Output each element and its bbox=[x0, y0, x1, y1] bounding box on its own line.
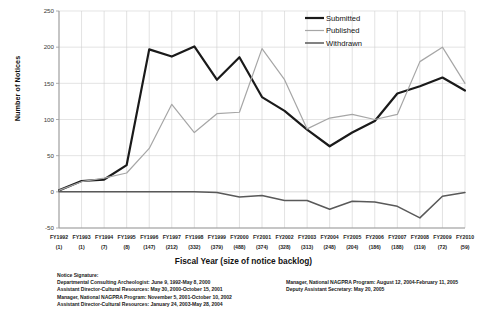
x-tick-label: FY2003 bbox=[298, 234, 316, 240]
footnote-line: Manager, National NAGPRA Program: Novemb… bbox=[57, 294, 282, 301]
x-tick-label: FY2010 bbox=[456, 234, 474, 240]
footnotes-title: Notice Signature: bbox=[57, 272, 282, 279]
legend-label: Withdrawn bbox=[326, 39, 362, 48]
x-tick-sublabel: (332) bbox=[188, 244, 200, 250]
footnote-line: Departmental Consulting Archeologist: Ju… bbox=[57, 279, 282, 286]
x-tick-label: FY1996 bbox=[140, 234, 158, 240]
y-tick-label: -50 bbox=[45, 224, 55, 231]
y-tick-label: 150 bbox=[44, 80, 55, 87]
y-tick-label: 200 bbox=[44, 43, 55, 50]
x-tick-label: FY1993 bbox=[72, 234, 90, 240]
x-tick-label: FY2007 bbox=[388, 234, 406, 240]
x-tick-sublabel: (1) bbox=[56, 244, 63, 250]
x-tick-sublabel: (8) bbox=[123, 244, 130, 250]
y-tick-label: 250 bbox=[44, 7, 55, 14]
x-tick-label: FY2000 bbox=[230, 234, 248, 240]
footnotes-left-column: Notice Signature: Departmental Consultin… bbox=[57, 272, 282, 308]
footnotes-block: Notice Signature: Departmental Consultin… bbox=[0, 272, 487, 314]
x-tick-label: FY1998 bbox=[185, 234, 203, 240]
y-tick-labels-group: 250200150100500-50 bbox=[44, 7, 55, 231]
x-tick-label: FY2004 bbox=[321, 234, 339, 240]
x-tick-sublabel: (188) bbox=[391, 244, 403, 250]
x-tick-sublabel: (7) bbox=[101, 244, 108, 250]
x-tick-sublabel: (374) bbox=[256, 244, 268, 250]
x-tick-sublabel: (212) bbox=[166, 244, 178, 250]
x-tick-sublabel: (59) bbox=[460, 244, 469, 250]
x-tick-label: FY2001 bbox=[253, 234, 271, 240]
x-tick-label: FY2005 bbox=[343, 234, 361, 240]
chart-plot-area: 250200150100500-50 FY1992(1)FY1993(1)FY1… bbox=[0, 0, 487, 262]
figure-container: 250200150100500-50 FY1992(1)FY1993(1)FY1… bbox=[0, 0, 487, 314]
x-tick-label: FY2009 bbox=[433, 234, 451, 240]
x-tick-sublabel: (488) bbox=[233, 244, 245, 250]
x-tick-label: FY2006 bbox=[366, 234, 384, 240]
footnote-line: Deputy Assistant Secretary: May 20, 2005 bbox=[286, 286, 481, 293]
x-tick-sublabel: (328) bbox=[278, 244, 290, 250]
footnotes-right-column: Manager, National NAGPRA Program: August… bbox=[286, 279, 481, 293]
x-tick-sublabel: (72) bbox=[438, 244, 447, 250]
x-tick-sublabel: (313) bbox=[301, 244, 313, 250]
x-tick-label: FY1997 bbox=[163, 234, 181, 240]
x-tick-sublabel: (119) bbox=[414, 244, 426, 250]
y-axis-title: Number of Notices bbox=[13, 24, 22, 154]
footnote-line: Assistant Director-Cultural Resources: J… bbox=[57, 301, 282, 308]
x-tick-label: FY1992 bbox=[50, 234, 68, 240]
x-tick-label: FY2002 bbox=[275, 234, 293, 240]
x-tick-sublabel: (204) bbox=[346, 244, 358, 250]
x-tick-label: FY2008 bbox=[411, 234, 429, 240]
legend-label: Submitted bbox=[326, 14, 360, 23]
x-tick-label: FY1995 bbox=[118, 234, 136, 240]
x-tick-label: FY1999 bbox=[208, 234, 226, 240]
x-tick-sublabel: (147) bbox=[143, 244, 155, 250]
x-tick-labels-group: FY1992(1)FY1993(1)FY1994(7)FY1995(8)FY19… bbox=[50, 234, 474, 250]
y-tick-label: 50 bbox=[47, 152, 54, 159]
line-chart-svg: 250200150100500-50 FY1992(1)FY1993(1)FY1… bbox=[0, 0, 487, 262]
y-tick-label: 0 bbox=[51, 188, 55, 195]
x-tick-sublabel: (248) bbox=[324, 244, 336, 250]
footnote-line: Manager, National NAGPRA Program: August… bbox=[286, 279, 481, 286]
x-tick-sublabel: (1) bbox=[78, 244, 85, 250]
legend-label: Published bbox=[326, 26, 359, 35]
x-tick-sublabel: (379) bbox=[211, 244, 223, 250]
legend-group: SubmittedPublishedWithdrawn bbox=[305, 14, 362, 48]
y-tick-label: 100 bbox=[44, 116, 55, 123]
x-axis-title: Fiscal Year (size of notice backlog) bbox=[0, 256, 487, 266]
x-tick-sublabel: (186) bbox=[369, 244, 381, 250]
footnote-line: Assistant Director-Cultural Resources: M… bbox=[57, 286, 282, 293]
x-tick-label: FY1994 bbox=[95, 234, 113, 240]
